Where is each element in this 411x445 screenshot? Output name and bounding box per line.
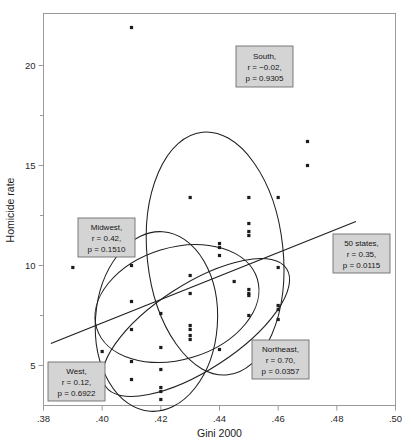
data-point xyxy=(306,140,309,143)
scatter-plot-figure: .38.40.42.44.46.48.50 5101520 South,r = … xyxy=(0,0,411,445)
data-point xyxy=(247,314,250,317)
plot-canvas: .38.40.42.44.46.48.50 5101520 South,r = … xyxy=(0,0,411,445)
data-point xyxy=(130,300,133,303)
data-point xyxy=(159,398,162,401)
annotation-line: r = 0.35, xyxy=(347,250,377,259)
x-tick-label: .42 xyxy=(154,413,167,424)
data-point xyxy=(159,368,162,371)
annotation-line: 50 states, xyxy=(344,239,379,248)
y-tick-label: 15 xyxy=(25,160,36,171)
data-point xyxy=(130,360,133,363)
annotation-line: r = 0.70, xyxy=(266,356,296,365)
data-point xyxy=(218,348,221,351)
annotation-line: Midwest, xyxy=(91,223,123,232)
annotation-line: Northeast, xyxy=(262,345,299,354)
data-point xyxy=(247,196,250,199)
data-point xyxy=(306,164,309,167)
data-point xyxy=(159,312,162,315)
data-point xyxy=(189,334,192,337)
data-point xyxy=(189,328,192,331)
annotation-line: p = 0.0357 xyxy=(261,367,300,376)
data-point xyxy=(218,254,221,257)
data-point xyxy=(277,304,280,307)
annotation-line: r = −0.02, xyxy=(247,63,281,72)
annotation-line: p = 0.6922 xyxy=(57,389,96,398)
annotation-line: r = 0.42, xyxy=(92,234,122,243)
x-tick-label: .46 xyxy=(272,413,285,424)
annotation-line: South, xyxy=(253,52,276,61)
annotation-west: West,r = 0.12,p = 0.6922 xyxy=(48,362,105,401)
data-point xyxy=(71,266,74,269)
y-tick-label: 10 xyxy=(25,260,36,271)
data-point xyxy=(277,266,280,269)
data-point xyxy=(189,274,192,277)
data-point xyxy=(101,350,104,353)
data-point xyxy=(218,242,221,245)
annotation-south: South,r = −0.02,p = 0.9305 xyxy=(236,46,293,87)
data-point xyxy=(130,328,133,331)
y-tick-label: 20 xyxy=(25,60,36,71)
x-tick-label: .38 xyxy=(37,413,50,424)
data-point xyxy=(277,308,280,311)
data-point xyxy=(130,264,133,267)
data-point xyxy=(159,390,162,393)
data-point xyxy=(159,386,162,389)
annotation-line: r = 0.12, xyxy=(62,378,92,387)
annotation-line: West, xyxy=(66,367,86,376)
data-point xyxy=(189,196,192,199)
x-tick-label: .48 xyxy=(330,413,343,424)
annotation-line: p = 0.0115 xyxy=(343,261,381,270)
data-point xyxy=(189,338,192,341)
data-point xyxy=(247,288,250,291)
annotation-fifty: 50 states,r = 0.35,p = 0.0115 xyxy=(333,234,390,273)
x-tick-label: .44 xyxy=(213,413,226,424)
data-point xyxy=(247,294,250,297)
data-point xyxy=(130,26,133,29)
data-point xyxy=(247,230,250,233)
x-tick-label: .40 xyxy=(96,413,109,424)
data-point xyxy=(233,280,236,283)
data-point xyxy=(277,196,280,199)
data-point xyxy=(189,292,192,295)
y-tick-label: 5 xyxy=(30,360,35,371)
data-point xyxy=(247,222,250,225)
annotation-northeast: Northeast,r = 0.70,p = 0.0357 xyxy=(252,340,309,379)
annotation-midwest: Midwest,r = 0.42,p = 0.1510 xyxy=(78,218,135,257)
annotation-line: p = 0.1510 xyxy=(87,245,126,254)
annotation-line: p = 0.9305 xyxy=(245,74,284,83)
x-axis-title: Gini 2000 xyxy=(197,427,242,439)
data-point xyxy=(159,346,162,349)
data-point xyxy=(218,246,221,249)
data-point xyxy=(277,318,280,321)
data-point xyxy=(189,324,192,327)
data-point xyxy=(247,234,250,237)
x-tick-label: .50 xyxy=(389,413,402,424)
data-point xyxy=(130,378,133,381)
y-axis-title: Homicide rate xyxy=(4,177,16,242)
